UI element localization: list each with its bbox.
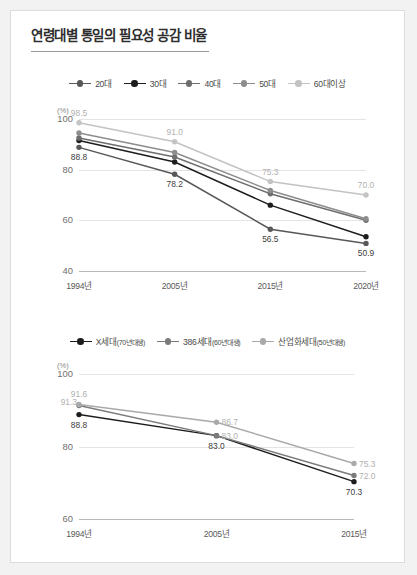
- legend-marker-icon: [288, 79, 310, 88]
- data-point-marker[interactable]: [363, 241, 368, 246]
- series-layer: [11, 101, 406, 301]
- data-point-marker[interactable]: [76, 402, 81, 407]
- legend-item[interactable]: 20대: [69, 77, 112, 89]
- data-point-label: 98.5: [63, 108, 95, 118]
- series-layer: [11, 356, 406, 551]
- data-point-label: 56.5: [254, 234, 286, 244]
- data-point-marker[interactable]: [214, 420, 219, 425]
- legend-item[interactable]: 40대: [178, 77, 221, 89]
- data-point-label: 70.3: [338, 487, 370, 497]
- data-point-marker[interactable]: [76, 145, 81, 150]
- legend-item-label: 30대: [150, 77, 167, 89]
- report-card: 연령대별 통일의 필요성 공감 비율 20대30대40대50대60대이상 (%)…: [10, 10, 405, 563]
- legend-marker-icon: [124, 79, 146, 88]
- legend-marker-icon: [233, 79, 255, 88]
- data-point-label: 72.0: [359, 471, 375, 481]
- data-point-marker[interactable]: [351, 473, 356, 478]
- data-point-label: 50.9: [350, 248, 382, 258]
- title-block: 연령대별 통일의 필요성 공감 비율: [31, 24, 361, 52]
- legend-generations: X세대(70년대생)386세대(60년대생)산업화세대(50년대생): [11, 335, 404, 347]
- data-point-marker[interactable]: [214, 433, 219, 438]
- data-point-label: 78.2: [159, 179, 191, 189]
- data-point-marker[interactable]: [363, 216, 368, 221]
- legend-item-sublabel: (50년대생): [317, 339, 345, 346]
- legend-item-sublabel: (60년대생): [212, 339, 240, 346]
- data-point-marker[interactable]: [172, 150, 177, 155]
- legend-marker-icon: [178, 79, 200, 88]
- data-point-marker[interactable]: [76, 130, 81, 135]
- data-point-label: 86.7: [222, 417, 238, 427]
- legend-item[interactable]: 60대이상: [288, 77, 346, 89]
- data-point-marker[interactable]: [268, 202, 273, 207]
- data-point-marker[interactable]: [76, 120, 81, 125]
- data-point-marker[interactable]: [268, 188, 273, 193]
- data-point-label: 83.0: [222, 431, 238, 441]
- data-point-marker[interactable]: [76, 412, 81, 417]
- data-point-label: 88.8: [63, 420, 95, 430]
- legend-marker-icon: [70, 337, 92, 346]
- data-point-marker[interactable]: [351, 479, 356, 484]
- data-point-label: 91.6: [63, 389, 95, 399]
- data-point-label: 88.8: [63, 152, 95, 162]
- legend-marker-icon: [69, 79, 91, 88]
- data-point-marker[interactable]: [363, 234, 368, 239]
- title-divider: [31, 51, 209, 52]
- data-point-marker[interactable]: [76, 135, 81, 140]
- legend-item-label: 60대이상: [314, 77, 346, 89]
- legend-marker-icon: [252, 337, 274, 346]
- legend-item-label: 40대: [204, 77, 221, 89]
- data-point-marker[interactable]: [363, 192, 368, 197]
- legend-item[interactable]: 50대: [233, 77, 276, 89]
- legend-marker-icon: [157, 337, 179, 346]
- data-point-marker[interactable]: [172, 159, 177, 164]
- data-point-marker[interactable]: [268, 179, 273, 184]
- data-point-label: 75.3: [254, 167, 286, 177]
- legend-age-groups: 20대30대40대50대60대이상: [11, 77, 404, 89]
- legend-item-sublabel: (70년대생): [117, 339, 145, 346]
- chart-generations: (%)10080601994년2005년2015년88.883.070.391.…: [11, 356, 406, 551]
- data-point-marker[interactable]: [172, 172, 177, 177]
- legend-item[interactable]: X세대(70년대생): [70, 335, 145, 347]
- data-point-label: 70.0: [350, 180, 382, 190]
- data-point-label: 75.3: [359, 459, 375, 469]
- data-point-label: 83.0: [201, 441, 233, 451]
- data-point-label: 91.0: [159, 127, 191, 137]
- chart-age-groups: (%)1008060401994년2005년2015년2020년88.878.2…: [11, 101, 406, 301]
- legend-item-label: 산업화세대(50년대생): [278, 335, 345, 347]
- data-point-marker[interactable]: [172, 139, 177, 144]
- legend-item-label: 386세대(60년대생): [183, 335, 240, 347]
- legend-item[interactable]: 산업화세대(50년대생): [252, 335, 345, 347]
- page-title: 연령대별 통일의 필요성 공감 비율: [31, 24, 361, 44]
- legend-item-label: X세대(70년대생): [96, 335, 145, 347]
- legend-item-label: 20대: [95, 77, 112, 89]
- data-point-marker[interactable]: [351, 461, 356, 466]
- legend-item[interactable]: 386세대(60년대생): [157, 335, 240, 347]
- legend-item-label: 50대: [259, 77, 276, 89]
- data-point-marker[interactable]: [268, 227, 273, 232]
- legend-item[interactable]: 30대: [124, 77, 167, 89]
